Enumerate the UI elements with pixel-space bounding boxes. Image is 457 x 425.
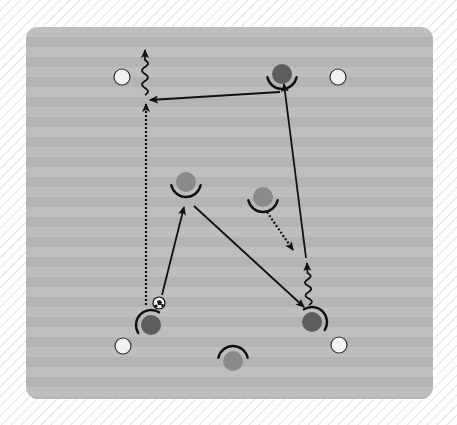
ball [153, 297, 165, 309]
field-stripe [26, 77, 433, 87]
player-body-icon [253, 187, 273, 207]
field-stripe [26, 317, 433, 327]
player-body-icon [141, 315, 161, 335]
field-stripe [26, 377, 433, 387]
field-stripe [26, 137, 433, 147]
cone-bottom-left-marker [115, 338, 131, 354]
field-stripe [26, 217, 433, 227]
field-stripe [26, 57, 433, 67]
drill-diagram: — — — [0, 0, 457, 425]
field-stripe [26, 277, 433, 287]
player-body-icon [302, 312, 322, 332]
field-stripe [26, 117, 433, 127]
field-stripe [26, 97, 433, 107]
cone-bottom-right-marker [331, 337, 347, 353]
field-stripe [26, 297, 433, 307]
field-stripe [26, 197, 433, 207]
cone-top-right-marker [330, 69, 346, 85]
field-stripe [26, 257, 433, 267]
player-body-icon [176, 172, 196, 192]
player-body-icon [272, 64, 292, 84]
player-body-icon [223, 351, 243, 371]
cone-top-left-marker [114, 69, 130, 85]
field-stripe [26, 157, 433, 167]
soccer-ball-icon [153, 297, 165, 309]
field-stripe [26, 177, 433, 187]
field-stripe [26, 37, 433, 47]
diagram-canvas [0, 0, 457, 425]
field [26, 27, 433, 407]
